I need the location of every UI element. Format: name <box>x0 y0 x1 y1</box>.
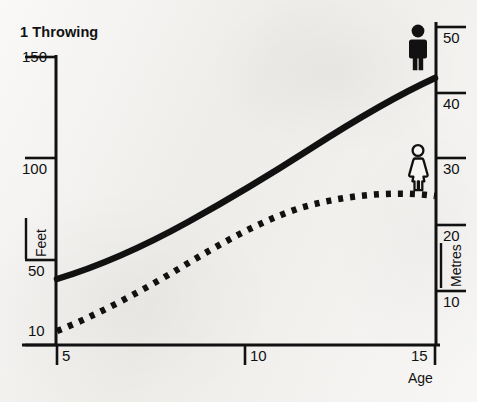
y-axis-tick-label-150: 150 <box>22 49 47 64</box>
bottom-axis <box>22 345 440 365</box>
female-figure-icon <box>409 145 428 190</box>
y2-axis-tick-label-30: 30 <box>443 161 460 176</box>
y-axis-tick-label-10: 10 <box>28 323 45 338</box>
x-axis-title-age: Age <box>408 370 433 386</box>
series-girls-dotted-line <box>57 194 435 331</box>
y2-axis-tick-label-40: 40 <box>443 96 460 111</box>
series-boys-solid-line <box>57 78 435 279</box>
x-axis-tick-label-15: 15 <box>411 348 428 363</box>
left-axis <box>25 55 56 346</box>
throwing-distance-chart <box>0 0 477 402</box>
y2-axis-tick-label-20: 20 <box>443 228 460 243</box>
y2-axis-tick-label-50: 50 <box>443 30 460 45</box>
y2-axis-tick-label-10: 10 <box>443 294 460 309</box>
y-axis-tick-label-50: 50 <box>28 263 45 278</box>
y-axis-title-feet: Feet <box>33 229 49 257</box>
chart-page: 1 Throwing 150 100 50 10 Feet 50 40 30 2… <box>0 0 477 402</box>
male-figure-icon <box>409 25 427 71</box>
x-axis-tick-label-5: 5 <box>62 348 70 363</box>
chart-title: 1 Throwing <box>20 24 98 40</box>
y2-axis-title-metres: Metres <box>448 244 464 287</box>
x-axis-tick-label-10: 10 <box>250 348 267 363</box>
y-axis-tick-label-100: 100 <box>22 161 47 176</box>
